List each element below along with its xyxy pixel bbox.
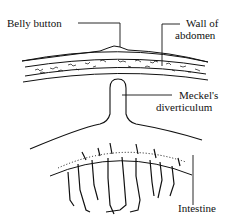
meckels-label-line2: diverticulum — [156, 101, 212, 113]
mesenteric-vessels — [68, 143, 180, 214]
wall-of-abdomen-label-line1: Wall of — [186, 17, 218, 29]
abdominal-wall — [22, 46, 208, 82]
diverticulum — [30, 79, 202, 149]
intestine — [50, 152, 192, 176]
belly-button-label: Belly button — [7, 17, 62, 29]
meckels-label-line1: Meckel's — [179, 89, 218, 101]
intestine-label: Intestine — [178, 202, 216, 214]
wall-of-abdomen-label-line2: abdomen — [175, 29, 215, 41]
